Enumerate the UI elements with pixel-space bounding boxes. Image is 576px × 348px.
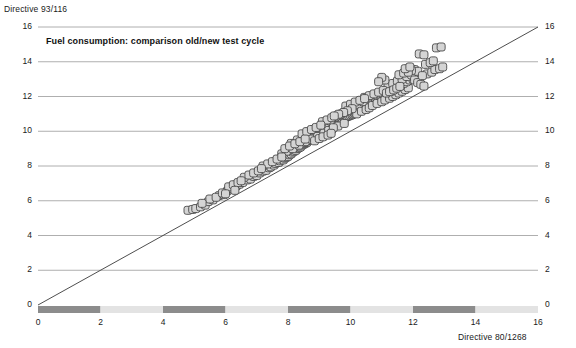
x-axis-band-segment [38, 306, 101, 313]
y-axis-tick-right: 16 [545, 21, 573, 31]
y-axis-tick-right: 0 [545, 299, 573, 309]
y-axis-tick-right: 14 [545, 56, 573, 66]
x-axis-title: Directive 80/1268 [458, 332, 527, 342]
y-axis-tick-left: 2 [4, 264, 32, 274]
x-axis-tick: 12 [399, 317, 427, 327]
x-axis-tick: 10 [337, 317, 365, 327]
data-point [420, 82, 428, 90]
data-point [420, 51, 428, 59]
x-axis-tick: 2 [87, 317, 115, 327]
y-axis-tick-left: 8 [4, 160, 32, 170]
data-point [418, 72, 426, 80]
x-axis-band-segment [288, 306, 351, 313]
data-point [278, 153, 286, 161]
y-axis-tick-left: 10 [4, 125, 32, 135]
x-axis-band-segment [351, 306, 414, 313]
data-point [257, 165, 265, 173]
x-axis-tick: 4 [149, 317, 177, 327]
data-point [406, 63, 414, 71]
y-axis-tick-right: 6 [545, 195, 573, 205]
fuel-consumption-scatter-chart: Directive 93/116 Fuel consumption: compa… [0, 0, 576, 348]
data-point [437, 43, 445, 51]
y-axis-tick-left: 0 [4, 299, 32, 309]
data-point [429, 57, 437, 65]
y-axis-tick-right: 12 [545, 91, 573, 101]
data-point [327, 129, 335, 137]
x-axis-tick: 16 [524, 317, 552, 327]
data-point [439, 63, 447, 71]
y-axis-tick-left: 14 [4, 56, 32, 66]
data-point [301, 135, 309, 143]
data-point [375, 78, 383, 86]
plot-area [0, 0, 576, 348]
x-axis-band-segment [413, 306, 476, 313]
y-axis-tick-right: 4 [545, 230, 573, 240]
y-axis-tick-right: 8 [545, 160, 573, 170]
data-point [330, 112, 338, 120]
data-point [198, 199, 206, 207]
data-point [222, 190, 230, 198]
x-axis-band-segment [101, 306, 164, 313]
data-point [396, 82, 404, 90]
y-axis-tick-left: 16 [4, 21, 32, 31]
data-point [237, 177, 245, 185]
x-axis-tick: 8 [274, 317, 302, 327]
x-axis-tick: 14 [462, 317, 490, 327]
data-point [340, 119, 348, 127]
y-axis-tick-left: 4 [4, 230, 32, 240]
x-axis-band [38, 306, 538, 313]
data-point [361, 95, 369, 103]
x-axis-band-segment [163, 306, 226, 313]
data-point-group [184, 43, 447, 214]
data-point [231, 186, 239, 194]
data-point [317, 121, 325, 129]
x-axis-band-segment [476, 306, 539, 313]
x-axis-band-segment [226, 306, 289, 313]
y-axis-tick-left: 6 [4, 195, 32, 205]
y-axis-tick-right: 10 [545, 125, 573, 135]
y-axis-tick-left: 12 [4, 91, 32, 101]
x-axis-tick: 0 [24, 317, 52, 327]
x-axis-tick: 6 [212, 317, 240, 327]
y-axis-tick-right: 2 [545, 264, 573, 274]
